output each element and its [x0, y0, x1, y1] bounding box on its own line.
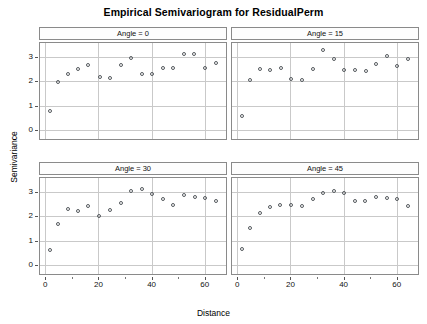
- gridline-horizontal: [40, 81, 226, 82]
- plot-canvas: [40, 178, 226, 274]
- data-point: [374, 62, 378, 66]
- gridline-vertical: [290, 43, 291, 139]
- y-axis-tick-mark: [35, 106, 38, 107]
- data-point: [108, 76, 112, 80]
- x-axis-tick-mark: [264, 277, 265, 279]
- data-point: [395, 197, 399, 201]
- data-point: [342, 191, 346, 195]
- data-point: [258, 67, 262, 71]
- data-point: [406, 204, 410, 208]
- data-point: [182, 52, 186, 56]
- data-point: [248, 78, 252, 82]
- gridline-horizontal: [232, 192, 418, 193]
- x-axis-tick-label: 0: [225, 281, 249, 289]
- data-point: [192, 52, 196, 56]
- y-axis-tick-mark: [35, 130, 38, 131]
- data-point: [97, 214, 101, 218]
- data-point: [171, 203, 175, 207]
- panel-angle-15: Angle = 15: [231, 27, 419, 140]
- gridline-horizontal: [40, 216, 226, 217]
- data-point: [171, 66, 175, 70]
- data-point: [278, 203, 282, 207]
- x-axis-tick-label: 0: [33, 281, 57, 289]
- panel-strip-label: Angle = 0: [39, 27, 227, 40]
- panel-plot-area: [39, 42, 227, 140]
- gridline-vertical: [237, 178, 238, 274]
- data-point: [248, 226, 252, 230]
- data-point: [193, 195, 197, 199]
- panel-strip-label: Angle = 45: [231, 162, 419, 175]
- gridline-horizontal: [40, 241, 226, 242]
- data-point: [56, 80, 60, 84]
- y-axis-tick-mark: [35, 265, 38, 266]
- data-point: [363, 199, 367, 203]
- data-point: [240, 247, 244, 251]
- x-axis-tick-mark: [125, 277, 126, 279]
- data-point: [161, 66, 165, 70]
- panel-angle-30: Angle = 30: [39, 162, 227, 275]
- data-point: [48, 109, 52, 113]
- x-axis-tick-mark: [178, 277, 179, 279]
- y-axis-title: Semivariance: [9, 97, 19, 217]
- data-point: [56, 222, 60, 226]
- plot-canvas: [40, 43, 226, 139]
- data-point: [279, 66, 283, 70]
- data-point: [129, 56, 133, 60]
- gridline-vertical: [397, 178, 398, 274]
- gridline-vertical: [98, 43, 99, 139]
- data-point: [140, 187, 144, 191]
- data-point: [268, 68, 272, 72]
- gridline-horizontal: [40, 57, 226, 58]
- data-point: [342, 68, 346, 72]
- gridline-horizontal: [232, 81, 418, 82]
- y-axis-tick-mark: [35, 241, 38, 242]
- data-point: [76, 67, 80, 71]
- data-point: [129, 189, 133, 193]
- chart-title: Empirical Semivariogram for ResidualPerm: [0, 6, 427, 18]
- data-point: [203, 196, 207, 200]
- plot-canvas: [232, 43, 418, 139]
- data-point: [214, 61, 218, 65]
- panel-strip-label: Angle = 15: [231, 27, 419, 40]
- gridline-horizontal: [40, 192, 226, 193]
- data-point: [385, 54, 389, 58]
- data-point: [86, 204, 90, 208]
- gridline-horizontal: [232, 216, 418, 217]
- semivariogram-chart: Empirical Semivariogram for ResidualPerm…: [0, 0, 427, 324]
- data-point: [240, 114, 244, 118]
- data-point: [140, 72, 144, 76]
- panel-plot-area: [231, 177, 419, 275]
- data-point: [66, 207, 70, 211]
- y-axis-tick-mark: [35, 57, 38, 58]
- gridline-vertical: [205, 178, 206, 274]
- data-point: [182, 193, 186, 197]
- gridline-horizontal: [40, 265, 226, 266]
- data-point: [364, 69, 368, 73]
- data-point: [161, 197, 165, 201]
- plot-canvas: [232, 178, 418, 274]
- x-axis-tick-mark: [370, 277, 371, 279]
- x-axis-tick-mark: [317, 277, 318, 279]
- y-axis-tick-label: 0: [17, 261, 33, 269]
- data-point: [321, 48, 325, 52]
- gridline-horizontal: [40, 106, 226, 107]
- y-axis-tick-mark: [35, 81, 38, 82]
- data-point: [321, 191, 325, 195]
- data-point: [258, 211, 262, 215]
- data-point: [311, 67, 315, 71]
- data-point: [374, 195, 378, 199]
- y-axis-tick-label: 0: [17, 126, 33, 134]
- x-axis-tick-label: 60: [385, 281, 409, 289]
- y-axis-tick-label: 1: [17, 102, 33, 110]
- data-point: [385, 196, 389, 200]
- gridline-horizontal: [232, 57, 418, 58]
- gridline-vertical: [205, 43, 206, 139]
- x-axis-tick-label: 40: [332, 281, 356, 289]
- gridline-horizontal: [232, 241, 418, 242]
- data-point: [311, 197, 315, 201]
- gridline-vertical: [397, 43, 398, 139]
- data-point: [76, 209, 80, 213]
- panel-plot-area: [231, 42, 419, 140]
- data-point: [214, 199, 218, 203]
- data-point: [203, 66, 207, 70]
